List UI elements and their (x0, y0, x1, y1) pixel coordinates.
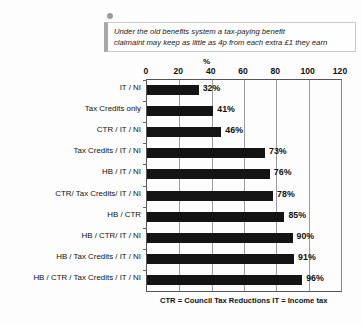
x-tick-20: 20 (174, 66, 184, 76)
bar (147, 127, 221, 137)
y-axis-tick (143, 249, 147, 250)
bar-row: Tax Credits only41% (147, 101, 341, 122)
y-axis-tick (143, 80, 147, 81)
y-axis-tick (143, 101, 147, 102)
x-tick-100: 100 (300, 66, 314, 76)
y-axis-tick (143, 122, 147, 123)
bar-value-label: 96% (306, 273, 324, 283)
x-tick-120: 120 (333, 66, 347, 76)
bar (147, 254, 294, 264)
bar (147, 169, 270, 179)
y-axis-tick (143, 228, 147, 229)
bar-row: CTR/ Tax Credits/ IT / NI78% (147, 186, 341, 207)
bar (147, 212, 284, 222)
bar-row: IT / NI32% (147, 80, 341, 101)
bar-value-label: 91% (298, 252, 316, 262)
bar-value-label: 41% (217, 104, 235, 114)
y-axis-tick (143, 186, 147, 187)
category-label: Tax Credits only (3, 104, 141, 113)
bar (147, 85, 199, 95)
bar (147, 191, 273, 201)
category-label: Tax Credits / IT / NI (3, 146, 141, 155)
bar-row: Tax Credits / IT / NI73% (147, 143, 341, 164)
category-label: HB / CTR / Tax Credits / IT / NI (3, 273, 141, 282)
category-label: HB / Tax Credits / IT / NI (3, 252, 141, 261)
x-tick-60: 60 (238, 66, 248, 76)
y-axis-tick (143, 164, 147, 165)
bar (147, 148, 265, 158)
category-label: IT / NI (3, 83, 141, 92)
bar (147, 106, 213, 116)
bar-value-label: 46% (225, 125, 243, 135)
bar-value-label: 76% (274, 167, 292, 177)
bar-chart: % 020406080100120 IT / NI32%Tax Credits … (0, 0, 362, 325)
x-tick-80: 80 (271, 66, 281, 76)
x-tick-40: 40 (206, 66, 216, 76)
category-label: HB / CTR (3, 210, 141, 219)
bar-row: HB / Tax Credits / IT / NI91% (147, 249, 341, 270)
bar (147, 233, 293, 243)
footnote-legend: CTR = Council Tax Reductions IT = Income… (160, 296, 327, 305)
category-label: HB / IT / NI (3, 167, 141, 176)
bar-row: HB / CTR85% (147, 207, 341, 228)
bar-value-label: 32% (203, 83, 221, 93)
y-axis-tick (143, 207, 147, 208)
y-axis-tick (143, 270, 147, 271)
bar (147, 275, 302, 285)
bar-value-label: 78% (277, 189, 295, 199)
category-label: CTR / IT / NI (3, 125, 141, 134)
bar-value-label: 85% (288, 210, 306, 220)
plot-area: IT / NI32%Tax Credits only41%CTR / IT / … (146, 79, 342, 292)
bar-value-label: 73% (269, 146, 287, 156)
x-axis-title: % (203, 57, 210, 66)
bar-row: HB / CTR / Tax Credits / IT / NI96% (147, 270, 341, 291)
bar-row: HB / IT / NI76% (147, 164, 341, 185)
category-label: CTR/ Tax Credits/ IT / NI (3, 189, 141, 198)
y-axis-tick (143, 143, 147, 144)
x-tick-0: 0 (144, 66, 149, 76)
x-axis-tick-labels: 020406080100120 (0, 66, 362, 77)
bar-row: CTR / IT / NI46% (147, 122, 341, 143)
bar-value-label: 90% (297, 231, 315, 241)
category-label: HB / CTR/ IT / NI (3, 231, 141, 240)
bar-row: HB / CTR/ IT / NI90% (147, 228, 341, 249)
